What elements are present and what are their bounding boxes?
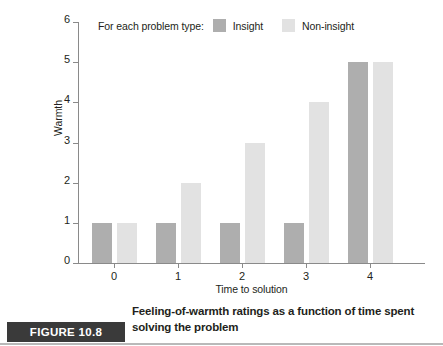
x-tick-label-2: 2 xyxy=(227,271,257,282)
y-tick-mark xyxy=(73,263,78,264)
x-tick-mark-4 xyxy=(370,263,371,268)
x-tick-label-4: 4 xyxy=(355,271,385,282)
figure-caption-block: FIGURE 10.8 Feeling-of-warmth ratings as… xyxy=(0,303,443,346)
bar-series-group xyxy=(78,22,425,263)
x-tick-mark-1 xyxy=(178,263,179,268)
figure-caption-text: Feeling-of-warmth ratings as a function … xyxy=(132,303,432,335)
bar-insight-3 xyxy=(284,223,304,263)
figure-bar-chart: For each problem type: Insight Non-insig… xyxy=(0,0,443,346)
bar-non-insight-4 xyxy=(373,62,393,263)
caption-rule-right xyxy=(132,343,443,346)
bar-insight-0 xyxy=(92,223,112,263)
y-tick-label: 5 xyxy=(50,54,70,65)
x-axis-line xyxy=(78,263,425,264)
y-axis-title: Warmth xyxy=(52,100,64,136)
y-tick-label: 6 xyxy=(50,14,70,25)
bar-insight-4 xyxy=(348,62,368,263)
bar-non-insight-3 xyxy=(309,102,329,263)
x-tick-label-3: 3 xyxy=(291,271,321,282)
x-tick-mark-2 xyxy=(242,263,243,268)
y-tick-label: 2 xyxy=(50,175,70,186)
bar-insight-2 xyxy=(220,223,240,263)
figure-number-badge: FIGURE 10.8 xyxy=(7,322,125,342)
bar-insight-1 xyxy=(156,223,176,263)
x-tick-label-0: 0 xyxy=(99,271,129,282)
y-tick-label: 3 xyxy=(50,135,70,146)
x-tick-mark-3 xyxy=(306,263,307,268)
bar-non-insight-1 xyxy=(181,183,201,263)
y-tick-label: 0 xyxy=(50,255,70,266)
plot-area: 0123456 01234 xyxy=(78,22,425,263)
bar-non-insight-0 xyxy=(117,223,137,263)
x-tick-mark-0 xyxy=(114,263,115,268)
bar-non-insight-2 xyxy=(245,143,265,264)
caption-rule-left xyxy=(0,343,132,346)
x-axis-title: Time to solution xyxy=(78,283,425,295)
y-tick-label: 1 xyxy=(50,215,70,226)
x-tick-label-1: 1 xyxy=(163,271,193,282)
